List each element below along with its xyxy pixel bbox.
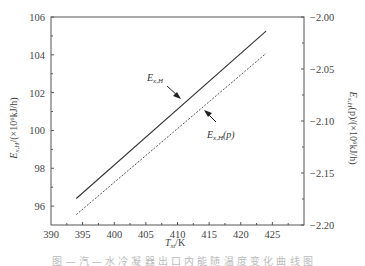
y-left-tick-label: 104 (29, 50, 46, 61)
series-exh-solid-line (76, 31, 266, 198)
x-tick-label: 425 (265, 229, 281, 240)
y-right-tick-label: −2.10 (310, 116, 334, 127)
y-right-tick-label: −2.00 (310, 12, 334, 23)
y-right-tick-label: −2.05 (310, 64, 334, 75)
y-left-tick-label: 96 (35, 201, 46, 212)
y-right-tick-label: −2.15 (310, 168, 334, 179)
line-chart: 390395400405410415420425 969810010210410… (0, 0, 365, 266)
x-tick-label: 420 (233, 229, 249, 240)
y-right-tick-label: −2.20 (310, 220, 334, 231)
annotation-exh-p-arrow-icon (204, 110, 216, 122)
x-tick-label: 390 (43, 229, 59, 240)
annotation-exh-p-label: Ex,H(p) (206, 129, 235, 142)
y-left-tick-label: 100 (29, 125, 45, 136)
figure-caption: 图 — 汽 — 水 冷 凝 器 出 口 内 能 随 温 度 变 化 曲 线 图 (0, 253, 365, 266)
x-axis-title: Tst/K (165, 237, 186, 250)
x-tick-label: 405 (138, 229, 154, 240)
y-left-tick-label: 102 (29, 88, 45, 99)
annotation-exh-arrow-icon (167, 86, 181, 99)
x-tick-label: 395 (75, 229, 91, 240)
series-exh-p-dashed-line (76, 53, 266, 214)
y-axis-left-ticks: 9698100102104106 (29, 12, 54, 212)
y-left-tick-label: 106 (29, 12, 45, 23)
x-tick-label: 400 (106, 229, 122, 240)
y-axis-right-ticks: −2.00−2.05−2.10−2.15−2.20 (301, 12, 334, 231)
x-tick-label: 415 (201, 229, 217, 240)
y-axis-left-title: Ex,H/(×10⁶kJ/h) (8, 97, 21, 159)
annotation-exh-label: Ex,H (146, 72, 164, 85)
plot-frame (51, 17, 304, 225)
y-axis-right-title: Ex,H(p)/(×10⁶kJ/h) (346, 91, 359, 165)
y-left-tick-label: 98 (35, 163, 46, 174)
